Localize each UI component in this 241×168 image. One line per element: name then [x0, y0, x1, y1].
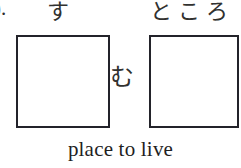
furigana-reading-above-box-1: す	[47, 1, 69, 23]
kanji-answer-box-1[interactable]	[16, 35, 110, 128]
worksheet-exercise-page: ). す ところ む place to live	[0, 0, 241, 168]
furigana-reading-above-box-2: ところ	[150, 1, 234, 23]
list-item-marker: ).	[0, 0, 6, 19]
connector-kana-mu: む	[110, 65, 134, 89]
english-translation-caption: place to live	[0, 136, 241, 162]
kanji-answer-box-2[interactable]	[149, 35, 239, 128]
